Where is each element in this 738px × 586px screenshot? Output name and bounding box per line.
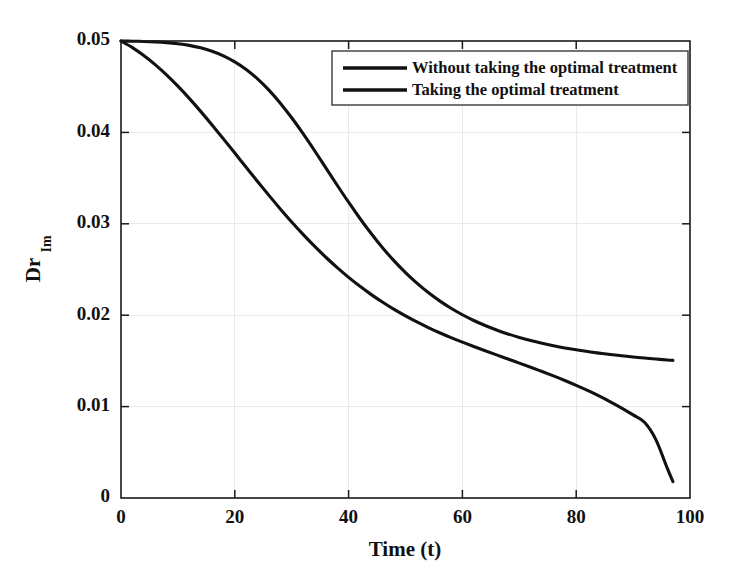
y-tick-label: 0.04 bbox=[77, 120, 111, 141]
y-tick-label: 0 bbox=[101, 485, 111, 506]
y-axis-title: Dr Im bbox=[21, 235, 54, 282]
y-tick-label: 0.05 bbox=[77, 28, 110, 49]
plot-area-background bbox=[121, 41, 690, 498]
y-tick-label: 0.01 bbox=[77, 394, 110, 415]
x-axis-title: Time (t) bbox=[369, 537, 442, 561]
x-tick-label: 20 bbox=[225, 506, 244, 527]
chart-figure: 020406080100 00.010.020.030.040.05 Time … bbox=[0, 0, 738, 586]
x-tick-label: 100 bbox=[676, 506, 705, 527]
x-tick-label: 60 bbox=[453, 506, 472, 527]
x-tick-label: 80 bbox=[567, 506, 586, 527]
y-tick-label: 0.02 bbox=[77, 303, 110, 324]
legend: Without taking the optimal treatment Tak… bbox=[332, 51, 688, 105]
y-axis-title-main: Dr bbox=[21, 258, 45, 283]
legend-label-taking-treatment: Taking the optimal treatment bbox=[412, 80, 619, 99]
line-chart: 020406080100 00.010.020.030.040.05 Time … bbox=[0, 0, 738, 586]
x-tick-label: 0 bbox=[116, 506, 126, 527]
y-tick-label: 0.03 bbox=[77, 211, 110, 232]
legend-label-without-treatment: Without taking the optimal treatment bbox=[412, 58, 678, 77]
y-axis-title-subscript: Im bbox=[39, 235, 54, 252]
x-tick-label: 40 bbox=[339, 506, 358, 527]
